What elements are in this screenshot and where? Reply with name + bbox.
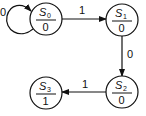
transition-label: 1 [82,78,88,90]
state-s3: S 3 1 [30,77,62,109]
state-s2: S 2 0 [106,76,138,108]
state-output: 0 [119,22,125,34]
transition-s0-s0: 0 [0,5,33,33]
state-diagram: 0 1 0 1 S 0 0 S 1 0 S 2 0 S 3 [0,0,146,116]
state-output: 0 [119,94,125,106]
state-name: S [39,80,47,92]
state-name: S [115,7,123,19]
transition-s2-s3: 1 [62,78,106,92]
state-name: S [115,79,123,91]
state-s1: S 1 0 [106,4,138,36]
transition-label: 1 [79,4,85,16]
state-subscript: 0 [47,12,51,19]
state-output: 1 [43,95,49,107]
state-subscript: 3 [47,86,51,93]
transition-label: 0 [0,6,6,18]
state-subscript: 2 [123,85,127,92]
state-s0: S 0 0 [30,3,62,35]
state-name: S [39,6,47,18]
transition-label: 0 [127,48,133,60]
state-output: 0 [43,21,49,33]
state-subscript: 1 [123,13,127,20]
transition-s1-s2: 0 [122,36,133,76]
transition-s0-s1: 1 [62,4,106,19]
